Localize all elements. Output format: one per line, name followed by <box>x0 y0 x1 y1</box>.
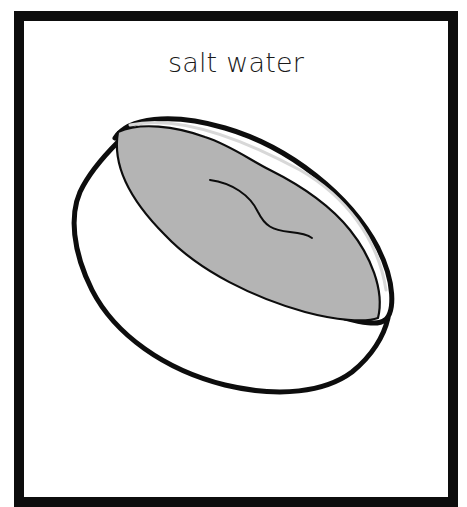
bowl-illustration <box>0 0 467 500</box>
